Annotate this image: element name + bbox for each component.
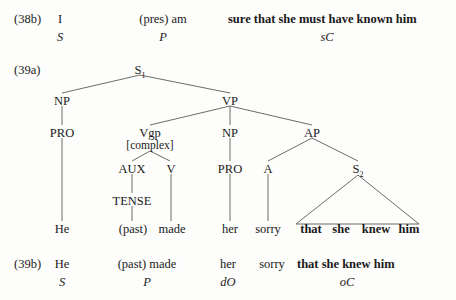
branch-vgp-v (150, 151, 170, 161)
example-39b-segment-text-0: He (55, 258, 70, 271)
s2-triangle (296, 175, 419, 224)
example-39b-segment-text-2: her (220, 258, 236, 271)
example-38b-segment-function-2: sC (320, 31, 333, 44)
tree-branch-lines (0, 0, 456, 300)
example-38b-segment-function-1: P (159, 31, 167, 44)
example-label-38b: (38b) (14, 13, 41, 26)
tree-node-np1: NP (54, 95, 70, 108)
tree-terminal-sorry: sorry (255, 223, 281, 236)
branch-vgp-aux (132, 151, 150, 161)
tree-node-vgp-feature: [complex] (126, 140, 173, 152)
example-38b-segment-function-0: S (57, 31, 63, 44)
tree-terminal-knew: knew (362, 223, 390, 236)
tree-terminal-him: him (399, 223, 420, 236)
tree-node-a: A (263, 163, 272, 176)
example-label-39a: (39a) (14, 64, 40, 77)
branch-ap-a (268, 138, 312, 161)
example-label-39b: (39b) (14, 258, 41, 271)
tree-node-pro1: PRO (50, 127, 74, 140)
example-39b-segment-function-1: P (143, 276, 151, 289)
tree-terminal-her: her (222, 223, 238, 236)
branch-vp-ap (230, 106, 312, 125)
tree-node-vgp: Vgp (139, 127, 161, 140)
example-39b-segment-text-3: sorry (259, 258, 285, 271)
tree-node-ap: AP (304, 127, 320, 140)
example-38b-segment-text-2: sure that she must have known him (228, 13, 417, 26)
tree-node-s1-subscript: 1 (141, 71, 145, 80)
tree-node-aux: AUX (118, 163, 145, 176)
figure-canvas: (38b) I S (pres) am P sure that she must… (0, 0, 456, 300)
tree-node-s1: S1 (135, 64, 146, 80)
example-39b-segment-text-4: that she knew him (297, 258, 395, 271)
tree-terminal-made: made (158, 223, 185, 236)
tree-node-s1-label: S (135, 63, 142, 77)
tree-terminal-that: that (300, 223, 322, 236)
branch-ap-s2 (312, 138, 358, 161)
tree-node-s2: S2 (353, 163, 364, 179)
tree-terminal-he: He (55, 223, 70, 236)
tree-node-pro2: PRO (218, 163, 242, 176)
tree-node-s2-subscript: 2 (359, 170, 363, 179)
example-39b-segment-text-1: (past) made (118, 258, 177, 271)
example-38b-segment-text-0: I (58, 13, 62, 26)
tree-terminal-she: she (332, 223, 349, 236)
tree-node-np2: NP (222, 127, 238, 140)
example-38b-segment-text-1: (pres) am (139, 13, 187, 26)
tree-node-s2-label: S (353, 162, 360, 176)
example-39b-segment-function-2: dO (220, 276, 235, 289)
branch-s1-np1 (62, 75, 140, 93)
tree-node-vp: VP (222, 95, 238, 108)
branch-vp-vgp (150, 106, 230, 125)
tree-node-tense: TENSE (113, 195, 152, 208)
branch-s1-vp (140, 75, 230, 93)
example-39b-segment-function-4: oC (340, 276, 355, 289)
example-39b-segment-function-0: S (59, 276, 65, 289)
tree-terminal-past: (past) (119, 223, 147, 236)
tree-node-v: V (166, 163, 175, 176)
